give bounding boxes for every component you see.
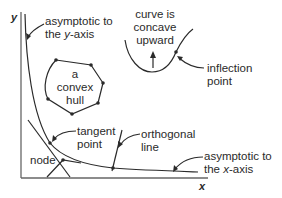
- orthogonal-line2: line: [141, 141, 195, 154]
- asymptote-x-leader: [175, 157, 203, 169]
- inflection-leader: [179, 58, 204, 68]
- orthogonal-label: orthogonal line: [141, 128, 195, 154]
- x-axis-label: x: [199, 180, 205, 193]
- text-span: the: [204, 163, 223, 175]
- concave-line3: upward: [130, 34, 180, 47]
- hull-label: a convex hull: [50, 68, 100, 107]
- orthogonal-line1: orthogonal: [141, 128, 195, 141]
- inflection-line1: inflection: [207, 62, 252, 75]
- asymptote-x-label: asymptotic to the x-axis: [204, 150, 272, 176]
- hull-vertex: [70, 112, 74, 116]
- orthogonal-point-dot: [111, 166, 115, 170]
- hull-vertex: [101, 81, 105, 85]
- up-arrowhead-icon: [150, 51, 156, 58]
- text-span: -axis: [229, 163, 253, 175]
- y-axis-label: y: [11, 11, 17, 24]
- asymptote-y-line1: asymptotic to: [45, 15, 113, 28]
- asymptote-y-line2: the y-axis: [45, 28, 113, 41]
- asymptote-x-line1: asymptotic to: [204, 150, 272, 163]
- text-span: -axis: [70, 28, 94, 40]
- orthogonal-leader: [120, 134, 140, 145]
- node-label: node: [30, 154, 56, 167]
- asymptote-y-leader: [28, 24, 44, 37]
- hull-vertex: [54, 58, 58, 62]
- inflection-point-dot: [174, 50, 178, 54]
- hull-vertex: [89, 63, 93, 67]
- concave-label: curve is concave upward: [130, 8, 180, 47]
- inflection-line2: point: [207, 75, 252, 88]
- tangent-point-dot: [48, 141, 52, 145]
- tangent-leader: [54, 131, 76, 139]
- node-dot: [61, 158, 65, 162]
- hull-line3: hull: [50, 94, 100, 107]
- asymptote-y-label: asymptotic to the y-axis: [45, 15, 113, 41]
- hull-line2: convex: [50, 81, 100, 94]
- tangent-line1: tangent: [77, 125, 115, 138]
- hull-line1: a: [50, 68, 100, 81]
- inflection-label: inflection point: [207, 62, 252, 88]
- tangent-line2: point: [77, 138, 115, 151]
- curve-terminology-diagram: y x asymptotic to the y-axis curve is co…: [0, 0, 282, 198]
- tangent-label: tangent point: [77, 125, 115, 151]
- asymptote-x-line2: the x-axis: [204, 163, 272, 176]
- tangent-line: [28, 120, 70, 177]
- text-span: the: [45, 28, 64, 40]
- concave-line2: concave: [130, 21, 180, 34]
- concave-line1: curve is: [130, 8, 180, 21]
